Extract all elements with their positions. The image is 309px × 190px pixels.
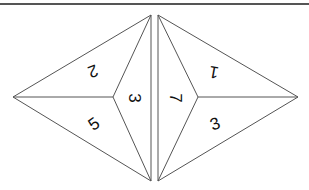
right-face-label-upper: 1 — [208, 62, 221, 82]
left-face-divider-top — [113, 15, 151, 97]
left-face-divider-bottom — [113, 97, 151, 181]
right-face-label-left: 7 — [166, 93, 185, 102]
left-face-label-upper: 2 — [85, 60, 100, 81]
triangle-net-diagram: 2 5 3 7 1 3 — [0, 0, 309, 190]
right-face-label-lower: 3 — [207, 113, 222, 134]
right-face-divider-top — [158, 15, 198, 97]
left-face-label-lower: 5 — [85, 114, 104, 135]
right-face-divider-bottom — [158, 97, 198, 181]
left-face-label-right: 3 — [125, 93, 144, 102]
